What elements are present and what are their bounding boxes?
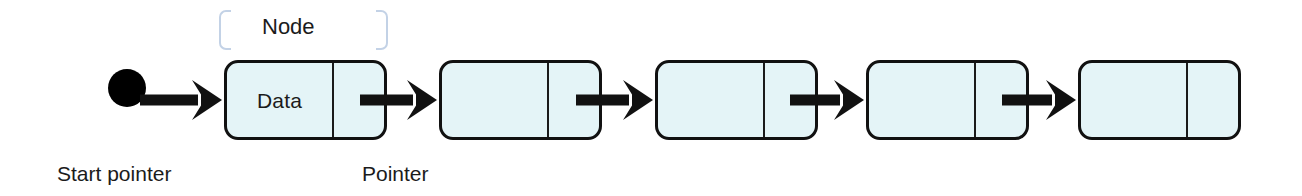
node-bracket-right-icon (376, 10, 388, 50)
start-pointer-caption: Start pointer (57, 163, 171, 184)
node-5-pointer-cell (1188, 63, 1238, 137)
node-bracket-left-icon (219, 10, 231, 50)
start-to-node-1-arrow-icon (140, 80, 222, 120)
node-2-pointer-cell (549, 63, 599, 137)
node-1-pointer-cell (334, 63, 384, 137)
node-3-data-cell (658, 63, 765, 137)
node-1: Data (224, 60, 387, 140)
node-1-data-cell: Data (227, 63, 334, 137)
node-label: Node (262, 16, 315, 38)
node-3-pointer-cell (765, 63, 815, 137)
node-5 (1078, 60, 1241, 140)
node-2 (439, 60, 602, 140)
node-5-data-cell (1081, 63, 1188, 137)
node-3 (655, 60, 818, 140)
node-2-data-cell (442, 63, 549, 137)
node-4 (866, 60, 1029, 140)
pointer-caption: Pointer (362, 163, 429, 184)
node-4-pointer-cell (976, 63, 1026, 137)
node-4-data-cell (869, 63, 976, 137)
start-pointer-dot-icon (108, 69, 146, 107)
node-1-data-label: Data (257, 90, 302, 111)
linked-list-diagram: Node Data Start pointer Pointer (0, 0, 1302, 196)
